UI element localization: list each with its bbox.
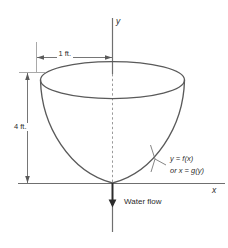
dimension-label-radius: 1 ft. (57, 50, 73, 58)
leader-line-stem (155, 159, 166, 165)
dimension-label-depth: 4 ft. (13, 123, 28, 131)
y-axis-label: y (116, 17, 120, 26)
arrow-up-icon (25, 73, 30, 80)
leader-line-branch-upper (151, 145, 156, 159)
arrow-left-icon (37, 55, 44, 60)
x-axis-label: x (212, 186, 216, 195)
curve-label-function-of-y: or x = g(y) (170, 167, 204, 175)
curve-label-function-of-x: y = f(x) (170, 155, 193, 163)
figure-container: y x 1 ft. 4 ft. y = f(x) or x = g(y) Wat… (0, 0, 228, 248)
arrow-down-icon (25, 176, 30, 183)
figure-graphic (0, 0, 228, 248)
arrow-down-icon (109, 200, 117, 208)
water-flow-label: Water flow (124, 198, 162, 206)
arrow-right-icon (105, 55, 112, 60)
